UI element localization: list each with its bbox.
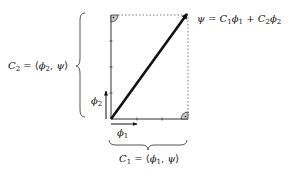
right-angle-marker-top (111, 15, 118, 22)
left-curly-brace (76, 13, 85, 117)
psi-vector-arrow (111, 14, 187, 119)
c1-inner-product-label: C1 = ⟨ϕ1, ψ⟩ (119, 153, 179, 166)
bottom-curly-brace (109, 140, 187, 150)
c2-inner-product-label: C2 = ⟨ϕ2, ψ⟩ (8, 60, 68, 73)
vector-decomposition-diagram: ψ = C1ϕ1 + C2ϕ2 C2 = ⟨ϕ2, ψ⟩ C1 = ⟨ϕ1, ψ… (0, 0, 288, 176)
psi-equation-label: ψ = C1ϕ1 + C2ϕ2 (197, 13, 281, 26)
phi2-label: ϕ2 (91, 95, 102, 108)
right-angle-marker-bottom (181, 112, 188, 119)
phi1-label: ϕ1 (117, 127, 128, 140)
